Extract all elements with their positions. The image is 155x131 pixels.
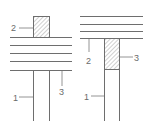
right-hatched-block (105, 39, 120, 70)
diagram-canvas: 2 1 3 2 3 1 (0, 0, 155, 131)
right-label-3: 3 (134, 53, 139, 63)
left-label-1: 1 (13, 93, 18, 103)
right-label-2: 2 (86, 56, 91, 66)
right-label-1: 1 (84, 92, 89, 102)
left-figure: 2 1 3 (10, 17, 72, 122)
right-figure: 2 3 1 (80, 17, 143, 122)
left-hatched-block (34, 17, 50, 38)
left-label-2: 2 (11, 23, 16, 33)
left-label-3: 3 (59, 87, 64, 97)
